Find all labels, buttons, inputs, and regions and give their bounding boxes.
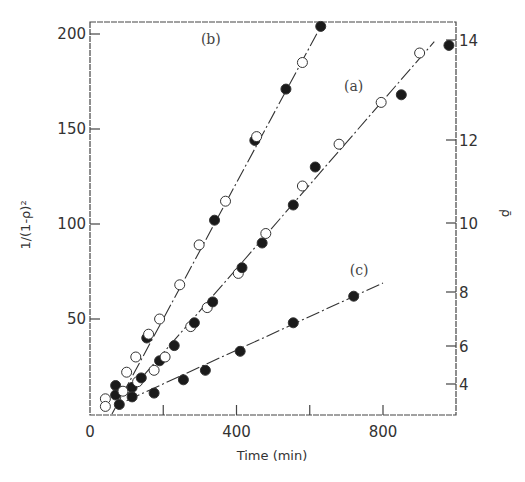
filled-circle-marker [444, 40, 454, 50]
filled-circle-marker [169, 341, 179, 351]
open-circle-marker [100, 401, 110, 411]
filled-circle-marker [149, 388, 159, 398]
plot-border [90, 22, 456, 415]
filled-circle-marker [235, 346, 245, 356]
series-label: (a) [344, 78, 363, 94]
open-circle-marker [261, 229, 271, 239]
filled-circle-marker [288, 318, 298, 328]
filled-circle-marker [189, 318, 199, 328]
filled-circle-marker [349, 291, 359, 301]
open-circle-marker [131, 352, 141, 362]
filled-circle-marker [396, 90, 406, 100]
y-tick-label-right: 6 [459, 338, 469, 356]
open-circle-marker [194, 240, 204, 250]
filled-circle-marker [210, 215, 220, 225]
y-tick-label-right: 4 [459, 376, 469, 394]
data-points [100, 21, 454, 411]
open-circle-marker [297, 181, 307, 191]
open-circle-marker [175, 280, 185, 290]
filled-circle-marker [281, 84, 291, 94]
open-circle-marker [221, 196, 231, 206]
filled-circle-marker [316, 21, 326, 31]
y-tick-label-right: 12 [459, 132, 478, 150]
y-tick-label-right: 10 [459, 215, 478, 233]
open-circle-marker [334, 139, 344, 149]
filled-circle-marker [288, 200, 298, 210]
open-circle-marker [122, 367, 132, 377]
x-axis-title: Time (min) [236, 448, 308, 463]
filled-circle-marker [310, 162, 320, 172]
open-circle-marker [160, 352, 170, 362]
filled-circle-marker [136, 373, 146, 383]
filled-circle-marker [200, 365, 210, 375]
series-labels: (b)(a)(c) [201, 31, 369, 279]
open-circle-marker [144, 329, 154, 339]
filled-circle-marker [257, 238, 267, 248]
filled-circle-marker [114, 400, 124, 410]
y-tick-label-left: 100 [57, 215, 86, 233]
open-circle-marker [252, 132, 262, 142]
x-tick-label: 400 [222, 423, 251, 441]
filled-circle-marker [127, 392, 137, 402]
x-tick-label: 800 [369, 423, 398, 441]
series-label: (c) [350, 262, 369, 278]
series-label: (b) [201, 31, 221, 47]
chart-canvas: 040080050100150200468101214 (b)(a)(c) Ti… [0, 0, 525, 482]
open-circle-marker [376, 97, 386, 107]
open-circle-marker [118, 386, 128, 396]
plot-frame [90, 22, 456, 415]
filled-circle-marker [237, 263, 247, 273]
open-circle-marker [149, 365, 159, 375]
y-tick-label-right: 8 [459, 284, 469, 302]
open-circle-marker [155, 314, 165, 324]
open-circle-marker [415, 48, 425, 58]
y-axis-title-left: 1/(1-ρ)² [18, 200, 33, 249]
y-tick-label-left: 150 [57, 120, 86, 138]
x-tick-label: 0 [85, 423, 95, 441]
y-tick-label-left: 50 [67, 310, 86, 328]
filled-circle-marker [178, 375, 188, 385]
filled-circle-marker [208, 297, 218, 307]
y-tick-label-left: 200 [57, 25, 86, 43]
y-axis-title-right: ρ̄ [499, 209, 514, 217]
fit-line [127, 283, 383, 401]
open-circle-marker [297, 58, 307, 68]
y-tick-label-right: 14 [459, 32, 478, 50]
